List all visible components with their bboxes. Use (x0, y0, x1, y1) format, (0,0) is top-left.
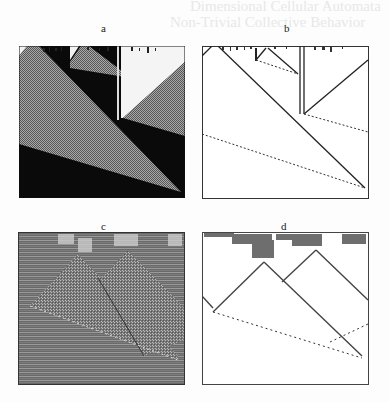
background-bleed-text-1: Dimensional Cellular Automata (190, 0, 381, 15)
panel-label-a: a (101, 22, 106, 34)
panel-label-d: d (281, 220, 287, 232)
panel-c (18, 232, 185, 385)
panel-label-c: c (101, 220, 106, 232)
panel-d (202, 232, 369, 385)
panel-label-b: b (284, 22, 290, 34)
background-bleed-text-2: Non-Trivial Collective Behavior (170, 14, 365, 31)
panel-b (202, 46, 369, 199)
panel-a (19, 46, 185, 198)
